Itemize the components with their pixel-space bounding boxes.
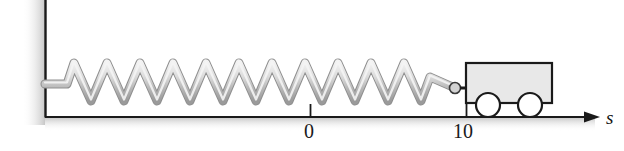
cart (466, 63, 552, 117)
spring-body (45, 63, 455, 101)
cart-wheel-rear (518, 93, 542, 117)
tick-label-0: 0 (304, 121, 314, 141)
axis-label-s: s (606, 108, 613, 127)
tick-label-10: 10 (453, 121, 473, 141)
coil-spring (45, 62, 455, 102)
spring-cart-diagram: 0 10 s (0, 0, 624, 151)
spring-hook-ball (450, 83, 468, 94)
cart-wheel-front (476, 93, 500, 117)
hook-ball-icon (450, 83, 461, 94)
wall-shadow (22, 0, 45, 125)
ground-shadow (45, 118, 595, 131)
